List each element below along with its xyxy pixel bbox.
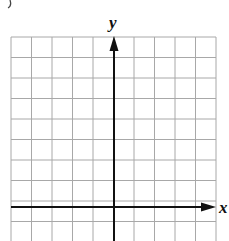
y-axis-arrow-icon	[110, 36, 119, 51]
cropped-text-fragment	[8, 0, 11, 8]
coordinate-grid: y x	[0, 0, 229, 241]
x-axis-arrow-icon	[201, 203, 216, 212]
x-axis-label: x	[218, 198, 228, 217]
y-axis-label: y	[107, 13, 117, 32]
